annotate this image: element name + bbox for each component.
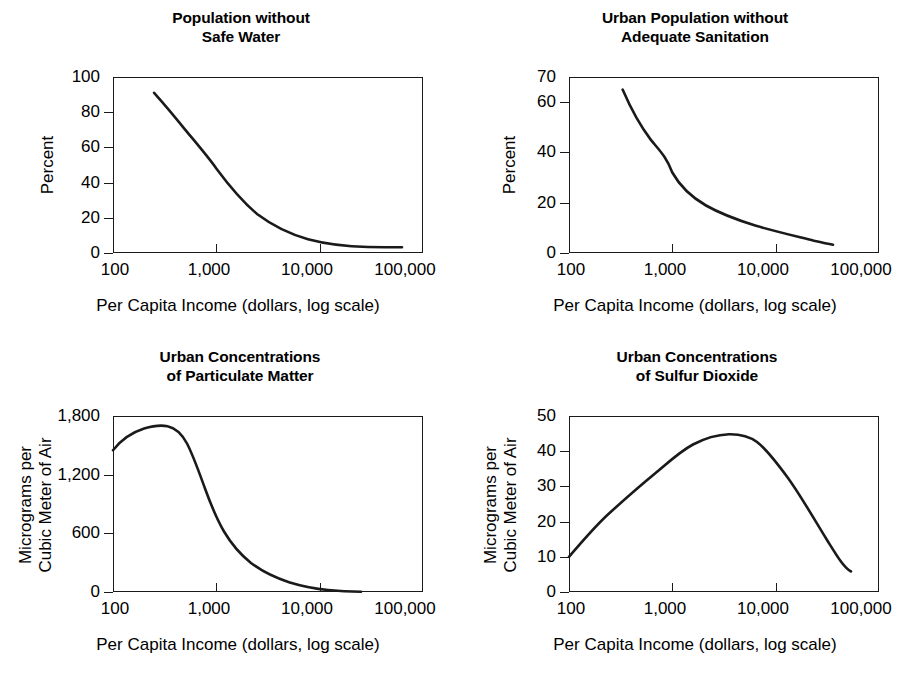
x-tick-label: 100 — [101, 260, 129, 280]
y-tick-label: 40 — [537, 142, 556, 162]
panel-title-line1: Urban Concentrations — [497, 347, 897, 366]
y-tick-mark — [104, 592, 113, 593]
x-tick-label: 100 — [101, 599, 129, 619]
plot-area: 0 20 40 60 80 100 100 1,000 10,000 100,0… — [113, 77, 423, 253]
y-tick-label: 10 — [537, 547, 556, 567]
y-tick-label: 50 — [537, 406, 556, 426]
y-tick-mark — [560, 203, 569, 204]
panel-title-line2: Adequate Sanitation — [485, 27, 905, 46]
y-tick-mark — [560, 102, 569, 103]
x-tick-label: 10,000 — [737, 260, 789, 280]
y-tick-label: 20 — [537, 512, 556, 532]
y-tick-mark — [104, 253, 113, 254]
y-tick-mark — [104, 475, 113, 476]
x-tick-label: 10,000 — [281, 260, 333, 280]
y-tick-label: 40 — [81, 173, 100, 193]
panel-title: Urban Concentrations of Sulfur Dioxide — [497, 347, 897, 385]
y-axis-title-line1: Percent — [500, 77, 520, 253]
y-tick-label: 20 — [537, 193, 556, 213]
y-tick-mark — [560, 522, 569, 523]
y-tick-mark — [104, 183, 113, 184]
y-tick-label: 100 — [72, 67, 100, 87]
y-tick-label: 30 — [537, 476, 556, 496]
y-axis-title-line1: Micrograms per — [481, 417, 501, 593]
panel-population-without-safe-water: Population without Safe Water Percent 0 … — [0, 0, 457, 339]
x-tick-label: 1,000 — [188, 260, 231, 280]
y-tick-mark — [560, 557, 569, 558]
panel-title: Urban Population without Adequate Sanita… — [485, 8, 905, 46]
y-tick-label: 60 — [81, 137, 100, 157]
x-axis-title: Per Capita Income (dollars, log scale) — [485, 635, 905, 655]
x-axis-title: Per Capita Income (dollars, log scale) — [28, 296, 448, 316]
y-tick-label: 80 — [81, 102, 100, 122]
y-tick-label: 1,200 — [57, 465, 100, 485]
y-tick-mark — [104, 112, 113, 113]
y-axis-title-line1: Micrograms per — [16, 417, 36, 593]
x-tick-label: 100,000 — [374, 260, 435, 280]
y-tick-label: 0 — [91, 582, 100, 602]
y-tick-label: 20 — [81, 208, 100, 228]
x-tick-label: 100,000 — [830, 599, 891, 619]
panel-title-line1: Urban Population without — [485, 8, 905, 27]
x-tick-label: 100,000 — [830, 260, 891, 280]
x-tick-label: 1,000 — [644, 599, 687, 619]
x-tick-label: 1,000 — [644, 260, 687, 280]
y-tick-label: 70 — [537, 67, 556, 87]
x-tick-label: 10,000 — [281, 599, 333, 619]
y-tick-label: 0 — [547, 243, 556, 263]
y-axis-title-line2: Cubic Meter of Air — [501, 417, 521, 593]
x-axis-title: Per Capita Income (dollars, log scale) — [485, 296, 905, 316]
y-axis-title: Percent — [38, 77, 58, 253]
x-tick-label: 100 — [557, 260, 585, 280]
y-tick-label: 40 — [537, 441, 556, 461]
panel-title-line1: Urban Concentrations — [40, 347, 440, 366]
plot-area: 0 20 40 60 70 100 1,000 10,000 100,000 — [569, 77, 879, 253]
panel-title-line2: Safe Water — [56, 27, 426, 46]
plot-area: 0 600 1,200 1,800 100 1,000 10,000 100,0… — [113, 416, 423, 592]
panel-urban-concentrations-of-particulate-matter: Urban Concentrations of Particulate Matt… — [0, 339, 457, 678]
x-tick-label: 1,000 — [188, 599, 231, 619]
x-tick-label: 100 — [557, 599, 585, 619]
plot-area: 0 10 20 30 40 50 100 1,000 10,000 100,00… — [569, 416, 879, 592]
chart-curve-sanitation — [569, 77, 879, 253]
y-axis-title: Micrograms per Cubic Meter of Air — [481, 417, 525, 593]
panel-title-line2: of Sulfur Dioxide — [497, 366, 897, 385]
y-tick-mark — [560, 592, 569, 593]
panel-urban-concentrations-of-sulfur-dioxide: Urban Concentrations of Sulfur Dioxide M… — [457, 339, 914, 678]
y-tick-mark — [104, 533, 113, 534]
y-tick-label: 0 — [547, 582, 556, 602]
y-tick-mark — [560, 486, 569, 487]
y-axis-title: Micrograms per Cubic Meter of Air — [16, 417, 60, 593]
y-tick-mark — [560, 451, 569, 452]
y-tick-label: 1,800 — [57, 406, 100, 426]
y-axis-title: Percent — [500, 77, 520, 253]
panel-title-line1: Population without — [56, 8, 426, 27]
four-panel-figure: Population without Safe Water Percent 0 … — [0, 0, 914, 678]
panel-title: Population without Safe Water — [56, 8, 426, 46]
chart-curve-safe-water — [113, 77, 423, 253]
panel-title-line2: of Particulate Matter — [40, 366, 440, 385]
y-tick-mark — [560, 253, 569, 254]
y-tick-label: 60 — [537, 92, 556, 112]
x-axis-title: Per Capita Income (dollars, log scale) — [28, 635, 448, 655]
chart-curve-particulate-matter — [113, 416, 423, 592]
y-tick-mark — [560, 152, 569, 153]
y-axis-title-line1: Percent — [38, 77, 58, 253]
chart-curve-sulfur-dioxide — [569, 416, 879, 592]
y-tick-label: 600 — [72, 523, 100, 543]
y-tick-mark — [104, 147, 113, 148]
y-axis-title-line2: Cubic Meter of Air — [36, 417, 56, 593]
y-tick-label: 0 — [91, 243, 100, 263]
panel-title: Urban Concentrations of Particulate Matt… — [40, 347, 440, 385]
x-tick-label: 100,000 — [374, 599, 435, 619]
panel-urban-population-without-adequate-sanitation: Urban Population without Adequate Sanita… — [457, 0, 914, 339]
x-tick-label: 10,000 — [737, 599, 789, 619]
y-tick-mark — [104, 218, 113, 219]
